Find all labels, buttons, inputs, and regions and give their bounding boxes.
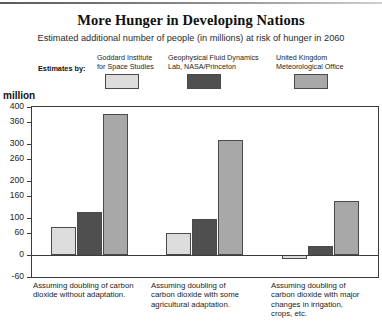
- y-axis-tick-label: 300: [10, 138, 24, 148]
- plot-inner: -60060100160200260300360400: [32, 107, 378, 277]
- y-axis-tick-label: 160: [10, 190, 24, 200]
- y-axis-tick-mark: [27, 144, 32, 145]
- bar-group: [32, 107, 147, 277]
- x-label-line: crops, etc.: [271, 309, 375, 318]
- legend-entry-gfdl: Geophysical Fluid Dynamics Lab, NASA/Pri…: [168, 54, 259, 89]
- y-axis-tick-label: 200: [10, 175, 24, 185]
- legend-heading: Estimates by:: [38, 64, 85, 73]
- bar-groups: [32, 107, 378, 277]
- chart-subtitle: Estimated additional number of people (i…: [0, 33, 382, 43]
- x-label-line: agricultural adaptation.: [151, 300, 255, 309]
- x-label-line: dioxide without adaptation.: [33, 290, 137, 299]
- y-axis-tick-label: 400: [10, 101, 24, 111]
- y-axis-tick-label: -60: [12, 271, 24, 281]
- legend-label-line2: for Space Studies: [97, 63, 154, 72]
- legend-entry-ukmo: United Kingdom Meteorological Office: [276, 54, 343, 89]
- bar: [51, 227, 76, 255]
- bar: [218, 140, 243, 255]
- legend-swatch-goddard: [105, 74, 139, 89]
- y-axis-tick-mark: [27, 122, 32, 123]
- bar: [166, 233, 191, 254]
- y-axis-unit-label: million: [3, 90, 35, 101]
- bar-group-bars: [51, 107, 128, 277]
- bar-group: [263, 107, 378, 277]
- bar-group-bars: [166, 107, 243, 277]
- y-axis-tick-label: 100: [10, 212, 24, 222]
- bar-group: [147, 107, 262, 277]
- chart-legend: Estimates by: Goddard Institute for Spac…: [0, 54, 382, 94]
- x-label-line: Assuming doubling of: [151, 281, 255, 290]
- y-axis-tick-mark: [27, 218, 32, 219]
- legend-entry-goddard: Goddard Institute for Space Studies: [97, 54, 154, 89]
- x-axis-label-1: Assuming doubling of carbon dioxide with…: [141, 281, 259, 329]
- y-axis-tick-label: 360: [10, 116, 24, 126]
- x-label-line: changes in irrigation,: [271, 300, 375, 309]
- legend-label-line2: Meteorological Office: [276, 63, 343, 72]
- x-label-line: Assuming doubling of carbon: [33, 281, 137, 290]
- y-axis-tick-mark: [27, 196, 32, 197]
- top-scan-rule: [0, 2, 382, 4]
- bar: [334, 201, 359, 255]
- bar: [103, 114, 128, 254]
- x-axis-labels: Assuming doubling of carbon dioxide with…: [31, 281, 379, 329]
- x-label-line: carbon dioxide with major: [271, 290, 375, 299]
- x-label-line: carbon dioxide with some: [151, 290, 255, 299]
- x-axis-label-0: Assuming doubling of carbon dioxide with…: [31, 281, 141, 329]
- legend-label-line2: Lab, NASA/Princeton: [168, 63, 259, 72]
- y-axis-tick-label: 60: [14, 227, 24, 237]
- bar: [308, 246, 333, 255]
- y-axis-tick-mark: [27, 233, 32, 234]
- zero-baseline: [32, 255, 378, 256]
- page-title: More Hunger in Developing Nations: [0, 12, 382, 29]
- legend-swatch-gfdl: [187, 74, 221, 89]
- plot-area: -60060100160200260300360400: [31, 106, 379, 278]
- y-axis-tick-label: 0: [19, 249, 24, 259]
- y-axis-tick-mark: [27, 107, 32, 108]
- x-label-line: Assuming doubling of: [271, 281, 375, 290]
- bar-group-bars: [282, 107, 359, 277]
- x-axis-label-2: Assuming doubling of carbon dioxide with…: [259, 281, 379, 329]
- y-axis-tick-mark: [27, 159, 32, 160]
- y-axis-tick-mark: [27, 277, 32, 278]
- y-axis-tick-mark: [27, 181, 32, 182]
- bar: [192, 219, 217, 255]
- legend-swatch-ukmo: [294, 74, 328, 89]
- y-axis-tick-label: 260: [10, 153, 24, 163]
- bar: [77, 212, 102, 255]
